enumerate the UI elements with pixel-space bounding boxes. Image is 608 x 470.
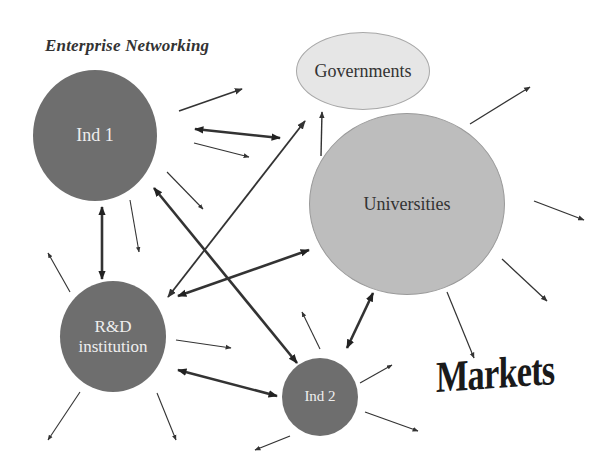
ind2-label: Ind 2	[304, 388, 335, 405]
ind2-node: Ind 2	[282, 358, 358, 436]
universities-node: Universities	[309, 113, 505, 295]
governments-label: Governments	[315, 61, 412, 82]
rnd-label-line1: R&D	[79, 317, 148, 337]
rnd-institution-node: R&D institution	[60, 281, 166, 392]
ind1-node: Ind 1	[33, 70, 157, 201]
rnd-label-line2: institution	[79, 337, 148, 357]
universities-label: Universities	[364, 194, 451, 215]
enterprise-network-diagram: Enterprise Networking Governments Ind 1 …	[0, 0, 608, 470]
governments-node: Governments	[296, 32, 430, 110]
markets-wordart: Markets	[436, 344, 554, 403]
diagram-title: Enterprise Networking	[45, 36, 209, 56]
ind1-label: Ind 1	[76, 125, 114, 146]
